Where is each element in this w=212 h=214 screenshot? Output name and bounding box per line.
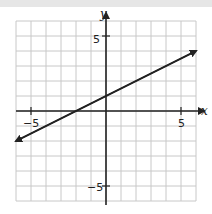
y-tick-label-5: 5 xyxy=(93,33,100,46)
axes xyxy=(16,13,204,205)
x-tick-label-neg5: −5 xyxy=(23,117,39,130)
x-axis-label: x xyxy=(201,104,208,118)
axis-labels: y x −5 5 5 −5 xyxy=(23,7,208,194)
y-tick-label-neg5: −5 xyxy=(87,181,103,194)
y-axis-label: y xyxy=(99,7,107,21)
coordinate-graph: y x −5 5 5 −5 xyxy=(0,0,212,214)
x-tick-label-5: 5 xyxy=(178,117,185,130)
